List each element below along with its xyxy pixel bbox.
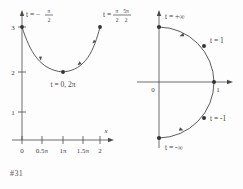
lower-point-label: t = -1 [210,114,227,123]
vertex-point-label: t = 0, 2π [50,80,75,89]
point-right [212,80,216,84]
point-upper [202,44,206,48]
x-tick-label-3: 1.5π [77,147,90,155]
worksheet-page: 0 0.5π 1π 1.5π 2 1 2 3 x t = − π [0,0,243,189]
svg-text:π: π [116,8,119,14]
figure-31: 0 0.5π 1π 1.5π 2 1 2 3 x t = − π [0,0,121,189]
point-end [98,25,102,29]
top-point-label: t = +∞ [165,12,185,21]
svg-text:t = −: t = − [26,10,40,19]
x-axis-arrowhead [108,138,114,142]
figure-33: 5π 2 t = +∞ t = 1 t = -1 [121,0,243,189]
svg-text:2: 2 [48,17,51,23]
bottom-point-label: t = -∞ [165,143,183,152]
y-tick-label-1: 1 [11,109,15,117]
x-tick-label-2: 1π [59,147,67,155]
point-start [20,25,24,29]
x-tick-label-4: 2 [98,147,102,155]
y-tick-label-3: 3 [11,24,15,32]
figure-33-plot: 5π 2 t = +∞ t = 1 t = -1 [121,0,243,165]
point-top [157,25,161,29]
end-point-label-continuation: 5π 2 [121,8,131,23]
y-axis-arrowhead [157,10,161,16]
point-vertex [61,70,65,74]
upper-point-label: t = 1 [210,36,224,45]
x-tick-label-0: 0 [20,147,24,155]
start-point-label: t = − π 2 [26,8,53,23]
x-axis-label: x [103,127,108,135]
point-bottom [157,136,161,140]
end-point-label: t = π 2 [103,8,121,23]
point-lower [202,116,206,120]
y-axis-arrowhead [20,10,24,16]
y-tick-label-2: 2 [11,69,15,77]
x-point-label: 1 [216,86,220,94]
origin-label: 0 [151,86,155,94]
curve-arrow-lower [178,127,183,132]
figure-31-caption: #31 [10,169,23,178]
semicircle-curve [159,27,214,138]
svg-text:t =: t = [103,10,111,19]
x-axis-arrowhead [227,80,233,84]
svg-text:2: 2 [125,17,128,23]
svg-text:5π: 5π [123,8,129,14]
figure-31-plot: 0 0.5π 1π 1.5π 2 1 2 3 x t = − π [0,0,121,165]
parametric-curve [22,27,100,72]
x-tick-label-1: 0.5π [36,147,49,155]
svg-text:2: 2 [116,17,119,23]
svg-text:π: π [48,8,51,14]
